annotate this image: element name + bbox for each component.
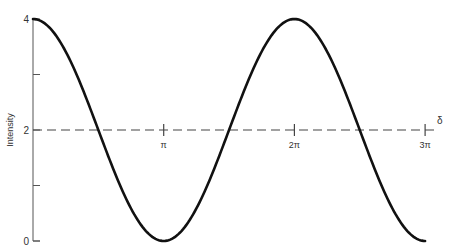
x-tick-labels: π2π3π [161,140,431,150]
x-tick-label: π [161,140,167,150]
x-tick-label: 3π [419,140,430,150]
y-tick-label: 0 [23,236,29,247]
y-tick-label: 2 [23,125,29,136]
intensity-chart: 024 Intensity π2π3π δ [0,0,450,251]
x-tick-label: 2π [289,140,300,150]
y-tick-labels: 024 [23,14,29,247]
y-tick-label: 4 [23,14,29,25]
y-axis-label: Intensity [5,113,15,147]
x-axis-label-delta: δ [437,115,443,126]
